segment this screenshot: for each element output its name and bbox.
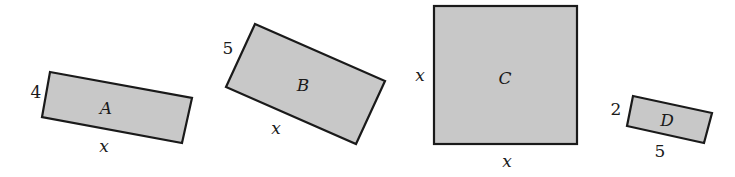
rectangle-d-base-label: 5	[655, 141, 666, 161]
rectangle-d-side-label: 2	[611, 99, 622, 119]
rectangle-a-base-label: x	[99, 136, 109, 156]
rectangle-b-side-label: 5	[223, 38, 234, 58]
rectangle-c: C x x	[415, 6, 577, 171]
rectangle-a: A 4 x	[31, 72, 192, 156]
rectangle-c-base-label: x	[502, 151, 512, 171]
rectangle-c-side-label: x	[415, 65, 425, 85]
rectangle-a-side-label: 4	[31, 82, 42, 102]
rectangle-b-base-label: x	[271, 118, 281, 138]
rectangle-b: B 5 x	[223, 24, 385, 144]
rectangle-b-name: B	[296, 75, 310, 95]
rectangle-c-name: C	[498, 68, 511, 88]
rectangle-a-shape	[42, 72, 192, 143]
rectangle-d-name: D	[659, 110, 674, 130]
rectangle-a-name: A	[98, 98, 112, 118]
rectangles-diagram: A 4 x B 5 x C x x D 2 5	[0, 0, 735, 177]
rectangle-d: D 2 5	[611, 96, 712, 161]
